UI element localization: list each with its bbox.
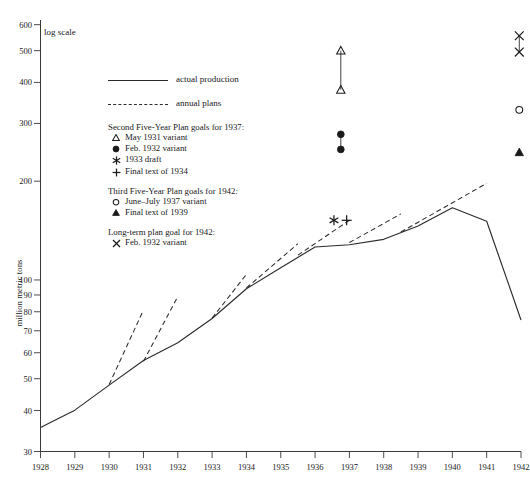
y-tick-label: 60: [24, 348, 33, 358]
annual-plan-segment: [349, 214, 400, 243]
open-circle-icon: [110, 196, 122, 206]
marker-connectors: [341, 36, 519, 150]
legend-item-feb-1932-longterm: Feb. 1932 variant: [108, 237, 338, 248]
legend-item-final-1934: Final text of 1934: [108, 166, 338, 177]
y-tick-label: 300: [19, 118, 32, 128]
legend-item-june-july-1937: June–July 1937 variant: [108, 196, 338, 207]
chart-container: log scale million metric tons 6005004003…: [0, 0, 530, 483]
legend-group-long-term: Long-term plan goal for 1942: Feb. 1932 …: [108, 227, 338, 248]
plus-icon: [110, 166, 122, 177]
legend-label-plans: annual plans: [176, 98, 221, 108]
x-tick-label: 1937: [341, 462, 358, 472]
x-tick-label: 1941: [478, 462, 495, 472]
filled-circle-icon: [110, 143, 122, 153]
legend-item-label: Feb. 1932 variant: [125, 143, 187, 153]
x-tick-label: 1930: [101, 462, 118, 472]
legend-item-label: 1933 draft: [125, 154, 161, 164]
x-tick-label: 1933: [204, 462, 221, 472]
x-tick-label: 1939: [410, 462, 427, 472]
x-tick-label: 1942: [513, 462, 530, 472]
legend-item-final-1939: Final text of 1939: [108, 207, 338, 218]
x-axis: 1928192919301931193219331934193519361937…: [32, 452, 530, 473]
legend-item-label: May 1931 variant: [125, 132, 188, 142]
legend-group-title: Third Five-Year Plan goals for 1942:: [108, 186, 338, 196]
annual-plan-segment: [401, 183, 487, 232]
legend-item-label: June–July 1937 variant: [125, 196, 207, 206]
y-tick-label: 600: [19, 20, 32, 30]
legend-row-actual: actual production: [108, 74, 338, 89]
goal-marker-filled-circle: [337, 146, 344, 153]
x-tick-label: 1931: [135, 462, 152, 472]
x-tick-label: 1928: [32, 462, 49, 472]
x-tick-label: 1940: [444, 462, 461, 472]
legend-group-third-plan: Third Five-Year Plan goals for 1942: Jun…: [108, 186, 338, 218]
legend-row-plans: annual plans: [108, 98, 338, 113]
y-tick-label: 500: [19, 46, 32, 56]
legend-item-label: Feb. 1932 variant: [125, 237, 187, 247]
cross-icon: [110, 237, 122, 248]
legend-item-label: Final text of 1934: [125, 166, 188, 176]
y-tick-label: 100: [19, 275, 32, 285]
asterisk-icon: [110, 154, 122, 165]
x-tick-label: 1936: [307, 462, 324, 472]
goal-marker-filled-circle: [337, 131, 344, 138]
goal-marker-plus: [342, 215, 352, 225]
y-tick-label: 200: [19, 176, 32, 186]
legend-item-label: Final text of 1939: [125, 207, 188, 217]
legend-swatch-solid: [108, 80, 168, 83]
legend-group-second-plan: Second Five-Year Plan goals for 1937: Ma…: [108, 122, 338, 177]
y-tick-label: 30: [24, 447, 33, 457]
legend-group-title: Second Five-Year Plan goals for 1937:: [108, 122, 338, 132]
x-tick-label: 1935: [272, 462, 289, 472]
y-tick-label: 70: [24, 326, 33, 336]
legend-item-1933-draft: 1933 draft: [108, 154, 338, 165]
open-triangle-icon: [110, 132, 122, 141]
x-tick-label: 1929: [66, 462, 83, 472]
legend: actual production annual plans Second Fi…: [108, 74, 338, 248]
y-tick-label: 400: [19, 77, 32, 87]
y-tick-label: 40: [24, 406, 33, 416]
legend-item-may-1931: May 1931 variant: [108, 132, 338, 143]
y-tick-label: 80: [24, 307, 33, 317]
x-tick-label: 1934: [238, 462, 256, 472]
goal-marker-filled-triangle: [515, 148, 523, 156]
goal-marker-open-circle: [516, 106, 523, 113]
filled-triangle-icon: [110, 207, 122, 216]
annual-plan-segment: [212, 274, 246, 318]
legend-item-feb-1932: Feb. 1932 variant: [108, 143, 338, 154]
y-tick-label: 50: [24, 374, 33, 384]
legend-group-title: Long-term plan goal for 1942:: [108, 227, 338, 237]
x-tick-label: 1932: [169, 462, 186, 472]
annual-plan-segment: [246, 244, 297, 288]
legend-swatch-dashed: [108, 104, 168, 107]
y-tick-label: 90: [24, 290, 33, 300]
y-axis: 60050040030020010090807060504030: [19, 20, 40, 457]
goal-markers: [330, 31, 524, 225]
x-tick-label: 1938: [375, 462, 392, 472]
legend-label-actual: actual production: [176, 74, 239, 84]
